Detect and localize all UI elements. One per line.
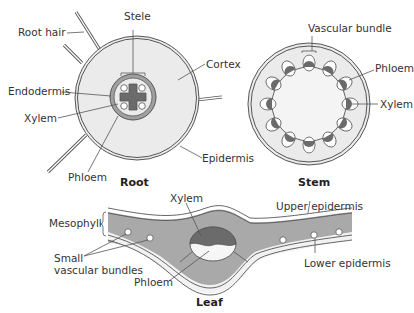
label-stem-xylem: Xylem [380,98,413,110]
label-upper-epidermis: Upper epidermis [276,200,363,212]
title-stem: Stem [298,176,330,189]
label-lower-epidermis: Lower epidermis [304,257,391,269]
label-cortex: Cortex [206,58,241,70]
label-stele: Stele [124,10,151,22]
label-root-phloem: Phloem [68,171,107,183]
leaf-cross-section [84,201,352,295]
label-leaf-xylem: Xylem [170,192,203,204]
label-endodermis: Endodermis [8,85,70,97]
label-epidermis: Epidermis [202,152,254,164]
label-stem-phloem: Phloem [375,62,414,74]
title-root: Root [120,176,149,189]
label-root-xylem: Xylem [24,112,57,124]
label-small-vascular-bundles-1: Small [54,252,83,264]
root-cross-section [48,12,222,172]
label-mesophyll: Mesophyll [49,217,102,229]
title-leaf: Leaf [196,296,223,309]
label-leaf-phloem: Phloem [134,276,173,288]
label-small-vascular-bundles-2: vascular bundles [54,264,143,276]
label-vascular-bundle: Vascular bundle [308,22,392,34]
label-root-hair: Root hair [18,26,65,38]
stem-cross-section [248,36,378,165]
